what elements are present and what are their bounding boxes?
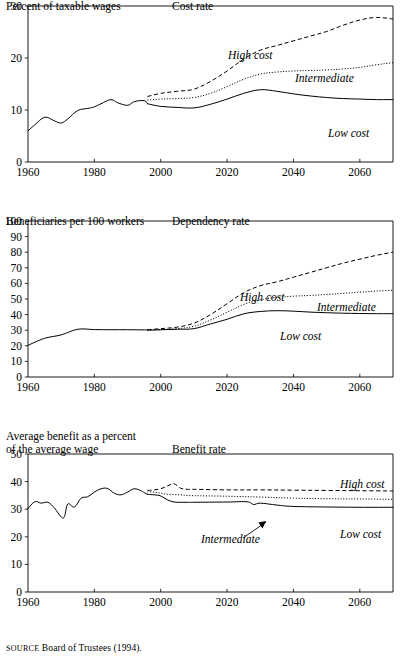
x-tick-label: 1980 bbox=[83, 381, 106, 393]
y-tick-label: 30 bbox=[11, 503, 23, 515]
x-tick-label: 2000 bbox=[149, 166, 172, 178]
x-tick-label: 2040 bbox=[282, 381, 305, 393]
source-text: Board of Trustees (1994). bbox=[39, 643, 142, 653]
annotation-low-cost: Low cost bbox=[279, 330, 322, 342]
x-tick-label: 2020 bbox=[216, 166, 239, 178]
y-tick-label: 70 bbox=[11, 262, 23, 274]
cost-rate-plot: 0102030196019802000202020402060High cost… bbox=[0, 0, 405, 190]
benefit-rate-plot: 01020304050196019802000202020402060High … bbox=[0, 430, 405, 615]
panel-benefit-rate: Average benefit as a percent of the aver… bbox=[0, 430, 405, 635]
series-historical bbox=[28, 100, 147, 131]
x-tick-label: 2020 bbox=[216, 381, 239, 393]
x-tick-label: 2040 bbox=[282, 166, 305, 178]
y-tick-label: 20 bbox=[11, 340, 23, 352]
y-tick-label: 10 bbox=[11, 558, 23, 570]
annotation-high-cost: High cost bbox=[227, 49, 273, 62]
y-tick-label: 40 bbox=[11, 309, 23, 321]
x-tick-label: 1980 bbox=[83, 166, 106, 178]
panel-cost-rate: Percent of taxable wages Cost rate 01020… bbox=[0, 0, 405, 215]
panel-dependency-rate: Beneficiaries per 100 workers Dependency… bbox=[0, 215, 405, 430]
source-label: SOURCE bbox=[6, 644, 39, 653]
y-tick-label: 90 bbox=[11, 231, 23, 243]
y-tick-label: 10 bbox=[11, 104, 23, 116]
annotation-low-cost: Low cost bbox=[327, 127, 370, 139]
x-tick-label: 1960 bbox=[17, 596, 40, 608]
x-tick-label: 2040 bbox=[282, 596, 305, 608]
series-low-cost bbox=[147, 311, 393, 331]
x-tick-label: 1980 bbox=[83, 596, 106, 608]
annotation-high-cost: High cost bbox=[339, 478, 385, 491]
dependency-rate-plot: 0102030405060708090100196019802000202020… bbox=[0, 215, 405, 405]
annotation-intermediate: Intermediate bbox=[294, 72, 354, 84]
series-historical bbox=[28, 488, 147, 518]
annotation-intermediate: Intermediate bbox=[316, 301, 376, 313]
y-tick-label: 20 bbox=[11, 531, 23, 543]
series-low-cost bbox=[147, 494, 393, 507]
y-tick-label: 60 bbox=[11, 277, 23, 289]
series-historical bbox=[28, 329, 147, 345]
x-tick-label: 2020 bbox=[216, 596, 239, 608]
y-tick-label: 30 bbox=[11, 0, 23, 12]
source-note: SOURCE Board of Trustees (1994). bbox=[6, 643, 142, 653]
y-tick-label: 30 bbox=[11, 324, 23, 336]
x-tick-label: 1960 bbox=[17, 381, 40, 393]
y-tick-label: 80 bbox=[11, 246, 23, 258]
y-tick-label: 50 bbox=[11, 293, 23, 305]
series-intermediate bbox=[147, 492, 393, 499]
arrow-head-icon bbox=[259, 521, 267, 529]
series-low-cost bbox=[147, 90, 393, 108]
annotation-low-cost: Low cost bbox=[339, 528, 382, 540]
annotation-high-cost: High cost bbox=[239, 291, 285, 304]
y-tick-label: 50 bbox=[11, 448, 23, 460]
x-tick-label: 2060 bbox=[348, 166, 371, 178]
y-tick-label: 40 bbox=[11, 476, 23, 488]
x-tick-label: 2000 bbox=[149, 596, 172, 608]
annotation-intermediate: Intermediate bbox=[200, 533, 260, 545]
x-tick-label: 1960 bbox=[17, 166, 40, 178]
x-tick-label: 2000 bbox=[149, 381, 172, 393]
y-tick-label: 100 bbox=[5, 215, 23, 227]
x-tick-label: 2060 bbox=[348, 596, 371, 608]
x-tick-label: 2060 bbox=[348, 381, 371, 393]
y-tick-label: 10 bbox=[11, 355, 23, 367]
y-tick-label: 20 bbox=[11, 52, 23, 64]
series-intermediate bbox=[147, 63, 393, 100]
